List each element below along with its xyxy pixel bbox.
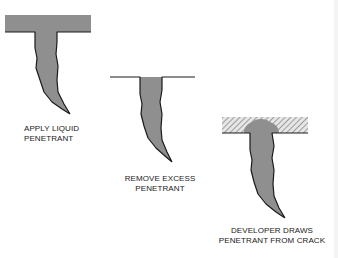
- caption-line: APPLY LIQUID: [24, 124, 79, 134]
- step-1-apply-figure: [5, 15, 91, 114]
- caption-line: DEVELOPER DRAWS: [212, 226, 332, 236]
- caption-line: PENETRANT: [115, 184, 205, 194]
- crack-filled-with-penetrant: [140, 77, 172, 162]
- page-edge-shadow: [334, 0, 338, 258]
- step-3-develop-figure: [222, 117, 308, 218]
- caption-line: PENETRANT FROM CRACK: [212, 236, 332, 246]
- caption-line: REMOVE EXCESS: [115, 174, 205, 184]
- penetrant-surface-layer: [5, 15, 91, 32]
- step-1-caption: APPLY LIQUID PENETRANT: [24, 124, 79, 144]
- caption-line: PENETRANT: [24, 134, 79, 144]
- step-2-remove-figure: [110, 77, 195, 162]
- step-3-caption: DEVELOPER DRAWS PENETRANT FROM CRACK: [212, 226, 332, 246]
- step-2-caption: REMOVE EXCESS PENETRANT: [115, 174, 205, 194]
